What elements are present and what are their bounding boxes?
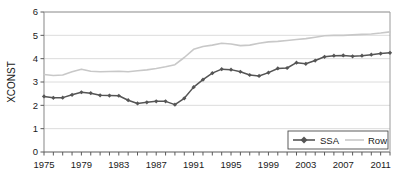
legend-label-row: Row bbox=[368, 135, 387, 146]
x-tick-label: 1979 bbox=[71, 159, 92, 170]
x-tick-label: 2011 bbox=[370, 159, 390, 170]
x-tick-label: 1991 bbox=[183, 159, 204, 170]
x-tick-label: 1975 bbox=[33, 159, 54, 170]
x-tick-label: 1987 bbox=[146, 159, 167, 170]
line-chart: 0123456 19751979198319871991199519992003… bbox=[0, 0, 409, 183]
y-axis-tick-labels: 0123456 bbox=[33, 6, 38, 157]
y-tick-label: 3 bbox=[33, 76, 38, 87]
y-tick-label: 1 bbox=[33, 123, 38, 134]
y-tick-label: 4 bbox=[33, 53, 38, 64]
x-tick-label: 1983 bbox=[108, 159, 129, 170]
y-tick-label: 5 bbox=[33, 30, 38, 41]
x-axis-tick-labels: 1975197919831987199119951999200320072011 bbox=[33, 159, 390, 170]
y-tick-label: 6 bbox=[33, 6, 38, 17]
y-tick-label: 2 bbox=[33, 100, 38, 111]
x-tick-label: 2007 bbox=[333, 159, 354, 170]
y-axis-title: XCONST bbox=[6, 61, 17, 103]
x-tick-label: 1995 bbox=[220, 159, 241, 170]
y-tick-label: 0 bbox=[33, 146, 38, 157]
chart-legend[interactable]: SSA Row bbox=[288, 131, 388, 149]
chart-container: 0123456 19751979198319871991199519992003… bbox=[0, 0, 409, 183]
legend-label-ssa: SSA bbox=[320, 135, 340, 146]
x-tick-label: 1999 bbox=[258, 159, 279, 170]
x-tick-label: 2003 bbox=[295, 159, 316, 170]
